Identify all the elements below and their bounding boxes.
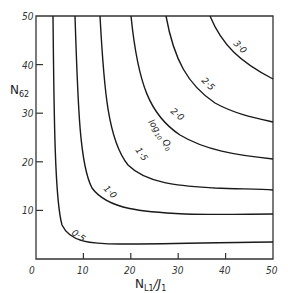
contour-label: 2·5 <box>200 75 217 92</box>
annotation-log10-q0: log10 Q0 <box>146 117 175 152</box>
y-tick-label: 30 <box>22 108 34 119</box>
x-axis-label: NL1/J1 <box>135 277 166 293</box>
x-tick-label: 30 <box>172 265 184 276</box>
x-tick-label: 0 <box>29 265 35 276</box>
y-axis-label: N62 <box>10 83 29 99</box>
y-tick-label: 10 <box>22 205 34 216</box>
x-ticks <box>83 253 225 259</box>
contour-1-5 <box>100 16 273 190</box>
x-tick-label: 50 <box>266 265 278 276</box>
contour-label: 1·5 <box>133 145 150 163</box>
contour-label: 1·0 <box>102 183 119 200</box>
x-tick-label: 10 <box>77 265 89 276</box>
contour-chart: 0 10 20 30 40 50 10 20 30 40 50 N62 NL1/… <box>0 0 288 293</box>
x-tick-label: 40 <box>219 265 231 276</box>
y-tick-label: 40 <box>22 60 34 71</box>
contour-2-5 <box>166 16 273 122</box>
contour-2-0 <box>131 16 273 159</box>
plot-frame <box>36 16 273 259</box>
y-tick-label: 50 <box>22 11 34 22</box>
y-ticks <box>36 65 43 211</box>
contour-label: 2·0 <box>169 106 187 123</box>
x-tick-label: 20 <box>124 265 136 276</box>
y-tick-label: 20 <box>22 157 34 168</box>
